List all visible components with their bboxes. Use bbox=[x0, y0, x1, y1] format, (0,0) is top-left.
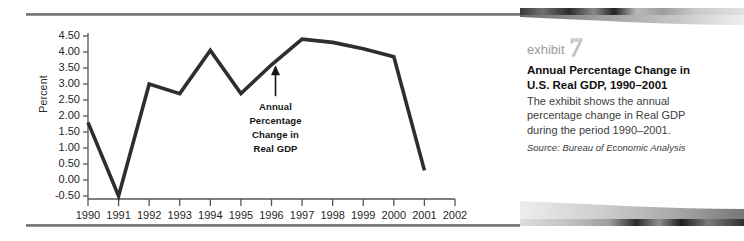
exhibit-caption-panel: exhibit 7 Annual Percentage Change in U.… bbox=[527, 34, 732, 154]
exhibit-figure: Percent 4.504.003.503.002.502.001.501.00… bbox=[0, 0, 744, 241]
exhibit-number: 7 bbox=[570, 37, 583, 59]
x-axis-tick-label: 2002 bbox=[432, 210, 478, 221]
line-chart: Percent 4.504.003.503.002.502.001.501.00… bbox=[0, 0, 520, 241]
annotation-line-2: Percentage bbox=[216, 116, 336, 126]
annotation-line-4: Real GDP bbox=[216, 144, 336, 154]
annotation-line-3: Change in bbox=[216, 130, 336, 140]
caption-source: Source: Bureau of Economic Analysis bbox=[527, 142, 732, 154]
caption-body-line2: percentage change in Real GDP bbox=[527, 108, 732, 123]
annotation-line-1: Annual bbox=[216, 102, 336, 112]
decorative-band-top bbox=[520, 8, 744, 34]
caption-body-line3: during the period 1990–2001. bbox=[527, 123, 732, 138]
decorative-band-bottom-svg bbox=[520, 196, 744, 226]
decorative-band-top-svg bbox=[520, 8, 744, 34]
caption-body-line1: The exhibit shows the annual bbox=[527, 94, 732, 109]
caption-title-line1: Annual Percentage Change in bbox=[527, 63, 732, 77]
caption-title-line2: U.S. Real GDP, 1990–2001 bbox=[527, 78, 732, 92]
decorative-band-bottom bbox=[520, 196, 744, 226]
exhibit-word: exhibit bbox=[527, 43, 565, 56]
exhibit-label: exhibit 7 bbox=[527, 34, 732, 58]
